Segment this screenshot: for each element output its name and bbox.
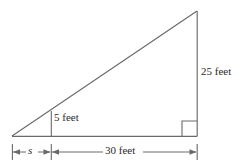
label-base-long-30-feet: 30 feet [105,145,135,156]
triangle-diagram-canvas [0,0,246,167]
right-angle-marker [182,121,197,136]
label-base-short-s: s [28,145,32,156]
label-inner-height-5-feet: 5 feet [54,112,79,123]
geometry-figure: 25 feet 5 feet 30 feet s [0,0,246,167]
arrowhead-s-left [13,149,20,155]
label-vertical-right-25-feet: 25 feet [201,66,231,77]
arrowhead-s-right [44,149,51,155]
arrowhead-30feet-right [190,149,197,155]
arrowhead-30feet-left [52,149,59,155]
hypotenuse-line [12,11,197,136]
